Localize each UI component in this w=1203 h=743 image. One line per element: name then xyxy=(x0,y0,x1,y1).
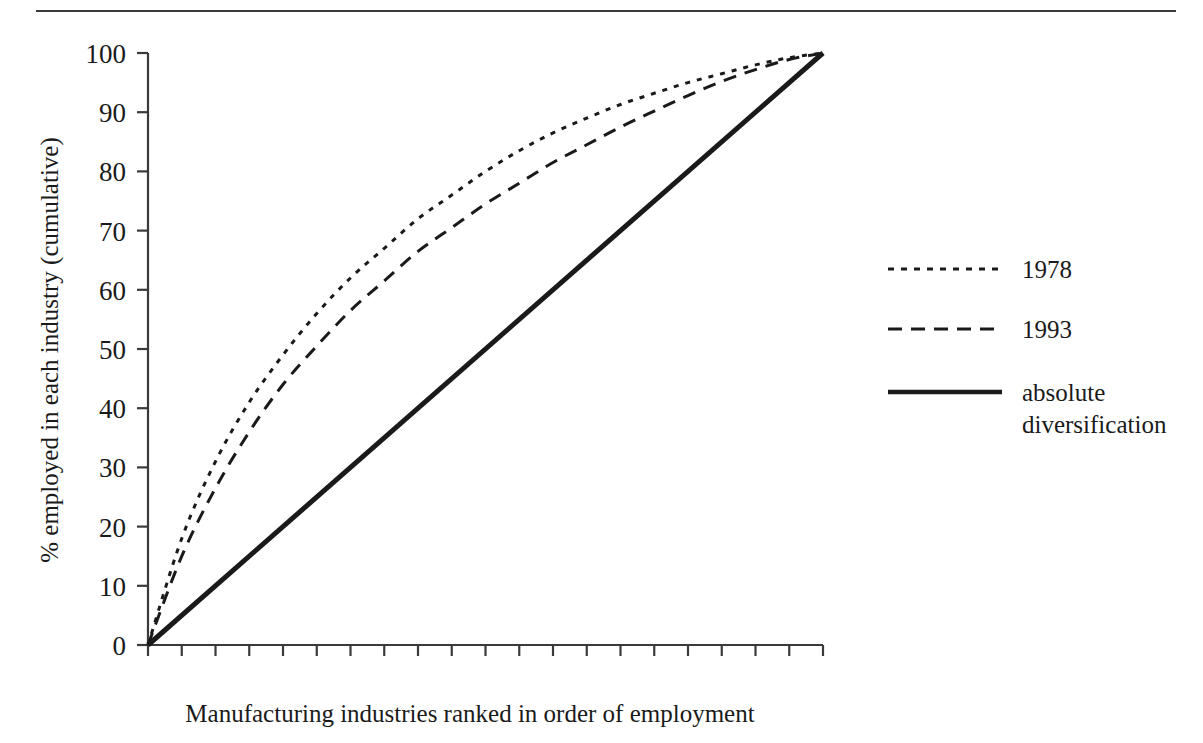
x-axis-ticks xyxy=(148,645,823,656)
y-axis-tick-label: 70 xyxy=(99,217,126,247)
y-axis-tick-label: 60 xyxy=(99,276,126,306)
y-axis-tick-label: 20 xyxy=(99,513,126,543)
y-axis-tick-labels: 0102030405060708090100 xyxy=(86,39,127,661)
x-axis-title: Manufacturing industries ranked in order… xyxy=(185,700,754,727)
y-axis-tick-label: 90 xyxy=(99,98,126,128)
lorenz-curve-chart: 0102030405060708090100 % employed in eac… xyxy=(0,0,1203,743)
y-axis-tick-label: 0 xyxy=(113,631,127,661)
legend-label-absolute-diversification-line1: absolute xyxy=(1022,379,1105,406)
y-axis-title: % employed in each industry (cumulative) xyxy=(36,137,64,563)
legend-label-absolute-diversification-line2: diversification xyxy=(1022,411,1167,438)
series-line-absolute-diversification xyxy=(148,53,823,645)
legend-label-1993: 1993 xyxy=(1022,316,1072,343)
y-axis-tick-label: 30 xyxy=(99,453,126,483)
legend-label-1978: 1978 xyxy=(1022,256,1072,283)
y-axis-tick-label: 80 xyxy=(99,157,126,187)
y-axis-tick-label: 40 xyxy=(99,394,126,424)
y-axis-tick-label: 50 xyxy=(99,335,126,365)
chart-legend: 1978 1993 absolute diversification xyxy=(888,256,1167,438)
data-series-group xyxy=(148,53,823,645)
y-axis-tick-label: 10 xyxy=(99,572,126,602)
y-axis-ticks xyxy=(137,53,148,645)
y-axis-tick-label: 100 xyxy=(86,39,127,69)
figure-container: 0102030405060708090100 % employed in eac… xyxy=(0,0,1203,743)
